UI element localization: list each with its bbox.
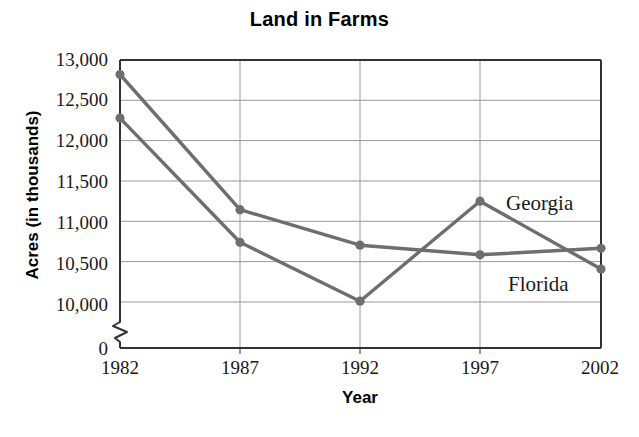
series-points-florida xyxy=(115,114,605,306)
y-axis-break-icon xyxy=(113,322,127,342)
plot-area xyxy=(0,0,639,437)
chart-figure: Land in Farms Acres (in thousands) Year … xyxy=(0,0,639,437)
